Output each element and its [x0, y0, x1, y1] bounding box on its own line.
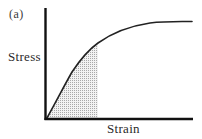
shaded-area — [47, 43, 98, 118]
stress-strain-figure: (a) Stress Strain — [0, 0, 202, 139]
plot-area — [0, 0, 202, 139]
